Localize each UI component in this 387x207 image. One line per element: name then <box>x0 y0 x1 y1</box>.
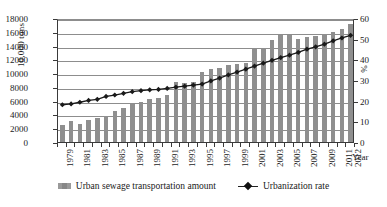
data-point-marker <box>86 98 91 103</box>
legend-item-urbanization-rate[interactable]: Urbanization rate <box>238 181 329 191</box>
data-point-marker <box>165 86 170 91</box>
bar-swatch-icon <box>58 183 71 189</box>
data-point-marker <box>243 67 248 72</box>
data-point-marker <box>296 50 301 55</box>
data-point-marker <box>182 84 187 89</box>
data-point-marker <box>348 33 353 38</box>
data-point-marker <box>313 44 318 49</box>
data-point-marker <box>234 69 239 74</box>
urbanization-rate-markers <box>60 33 353 108</box>
y-axis-right-tick-label: 20 <box>360 97 386 107</box>
data-point-marker <box>226 72 231 77</box>
data-point-marker <box>287 53 292 58</box>
data-point-marker <box>60 102 65 107</box>
x-axis-tick-label: 2005 <box>292 149 302 167</box>
y-axis-left-tick-label: 0 <box>0 138 28 148</box>
x-axis-tick-label: 1983 <box>100 149 110 167</box>
x-axis-tick-label: 1993 <box>187 149 197 167</box>
plot-area <box>57 19 354 143</box>
data-point-marker <box>331 38 336 43</box>
y-axis-left-tick-label: 12000 <box>0 55 28 65</box>
line-diamond-swatch-icon <box>238 182 258 190</box>
data-point-marker <box>339 35 344 40</box>
y-axis-right-tick-label: 40 <box>360 55 386 65</box>
data-point-marker <box>191 83 196 88</box>
data-point-marker <box>217 75 222 80</box>
x-axis-tick-label: 2009 <box>327 149 337 167</box>
data-point-marker <box>252 63 257 68</box>
x-axis-tick-label: 2007 <box>309 149 319 167</box>
y-axis-right-tick-label: 60 <box>360 14 386 24</box>
x-axis-tick-label: 1995 <box>205 149 215 167</box>
data-point-marker <box>304 47 309 52</box>
data-point-marker <box>77 100 82 105</box>
y-axis-left-tick-label: 8000 <box>0 83 28 93</box>
x-axis-tick-label: 2001 <box>257 149 267 167</box>
y-axis-right-tick-label: 50 <box>360 35 386 45</box>
legend-label-urban-sewage-transportation-amount: Urban sewage transportation amount <box>76 181 216 191</box>
data-point-marker <box>69 101 74 106</box>
x-axis-tick-label: 1985 <box>117 149 127 167</box>
data-point-marker <box>95 97 100 102</box>
y-axis-left-tick-label: 16000 <box>0 28 28 38</box>
chart-legend: Urban sewage transportation amount Urban… <box>0 181 387 191</box>
data-point-marker <box>121 91 126 96</box>
data-point-marker <box>278 55 283 60</box>
x-axis-tick-label: 2012 <box>353 149 363 167</box>
data-point-marker <box>156 87 161 92</box>
y-axis-left-tick-label: 14000 <box>0 42 28 52</box>
data-point-marker <box>147 87 152 92</box>
data-point-marker <box>261 61 266 66</box>
chart-figure: 10,000 tons % Year 020004000600080001000… <box>0 0 387 207</box>
x-axis-tick-label: 1991 <box>170 149 180 167</box>
y-axis-right-tick-label: 30 <box>360 76 386 86</box>
x-axis-tick-label: 2003 <box>275 149 285 167</box>
x-axis-tick-label: 1979 <box>65 149 75 167</box>
x-axis-tick-label: 1987 <box>135 149 145 167</box>
data-point-marker <box>103 94 108 99</box>
data-point-marker <box>130 89 135 94</box>
x-axis-tick-label: 1997 <box>222 149 232 167</box>
data-point-marker <box>269 58 274 63</box>
y-axis-right-tick-label: 0 <box>360 138 386 148</box>
y-axis-left-tick-label: 10000 <box>0 69 28 79</box>
data-point-marker <box>208 78 213 83</box>
y-axis-left-tick-label: 6000 <box>0 97 28 107</box>
data-point-marker <box>112 92 117 97</box>
x-axis-tick-label: 1989 <box>152 149 162 167</box>
y-axis-left-tick-label: 4000 <box>0 110 28 120</box>
y-axis-left-tick-label: 18000 <box>0 14 28 24</box>
line-series-urbanization-rate <box>58 20 355 144</box>
data-point-marker <box>200 81 205 86</box>
x-axis-tick-label: 1981 <box>82 149 92 167</box>
data-point-marker <box>173 85 178 90</box>
y-axis-left-tick-label: 2000 <box>0 124 28 134</box>
legend-label-urbanization-rate: Urbanization rate <box>263 181 329 191</box>
x-axis-tick-label: 1999 <box>240 149 250 167</box>
data-point-marker <box>138 88 143 93</box>
data-point-marker <box>322 42 327 47</box>
legend-item-urban-sewage-transportation-amount[interactable]: Urban sewage transportation amount <box>58 181 216 191</box>
y-axis-right-tick-label: 10 <box>360 117 386 127</box>
